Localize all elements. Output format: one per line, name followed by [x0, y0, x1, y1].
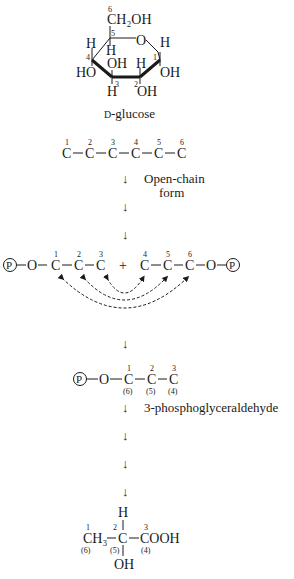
- mapping-arrow-c1-c6: [62, 278, 187, 308]
- lactate-c1-origin: (6): [81, 546, 91, 555]
- oc-c2: C: [85, 146, 94, 161]
- c4-hydrogen: H: [86, 36, 96, 51]
- down-arrow-7: ↓: [122, 456, 129, 471]
- c3-hydroxyl: OH: [107, 56, 127, 71]
- lactate-c2-num: 2: [113, 523, 117, 532]
- glucose-structure: 6 CH₂OH 5 O H H H 4 1 HO OH H OH 3 2 H O…: [76, 5, 180, 121]
- cl-c5: C: [163, 258, 172, 273]
- cl-c1: C: [51, 258, 60, 273]
- lactate-c3-origin: (4): [141, 546, 151, 555]
- oc-c5: C: [154, 146, 163, 161]
- lactate-ch3: CH₃: [83, 531, 107, 546]
- lactate-h: H: [118, 505, 128, 520]
- open-chain-label-2: form: [159, 185, 184, 200]
- down-arrow-4: ↓: [122, 336, 129, 351]
- g3p-c3: C: [169, 372, 178, 387]
- c4-number: 4: [86, 53, 90, 62]
- oc-c6: C: [177, 146, 186, 161]
- down-arrow-5: ↓: [122, 400, 129, 415]
- g3p-phosphate: P: [76, 373, 82, 385]
- cl-c4: C: [140, 258, 149, 273]
- g3p-c1: C: [124, 372, 133, 387]
- g3p-label: 3-phosphoglyceraldehyde: [144, 400, 279, 415]
- plus-sign: +: [119, 258, 127, 273]
- c5-number: 5: [111, 29, 115, 38]
- oc-c1: C: [62, 146, 71, 161]
- mapping-arrow-c3-c4: [107, 278, 143, 293]
- c2-hydroxyl: OH: [137, 84, 157, 99]
- oxygen-left: O: [27, 258, 37, 273]
- lactate-c2: C: [118, 531, 127, 546]
- open-chain-structure: 1 2 3 4 5 6 C C C C C C: [62, 138, 186, 161]
- c1-hydrogen: H: [160, 35, 170, 50]
- o-c1-bond: [146, 40, 158, 52]
- down-arrow-8: ↓: [122, 484, 129, 499]
- down-arrow-3: ↓: [122, 227, 129, 242]
- down-arrow-2: ↓: [122, 199, 129, 214]
- glycolysis-diagram: 6 CH₂OH 5 O H H H 4 1 HO OH H OH 3 2 H O…: [0, 0, 294, 579]
- cl-c6: C: [185, 258, 194, 273]
- g3p-structure: P O 1 2 3 C C C (6) (5) (4): [74, 364, 179, 396]
- lactate-cooh: COOH: [140, 531, 180, 546]
- lactate-c2-origin: (5): [110, 546, 120, 555]
- c1-hydroxyl: OH: [160, 65, 180, 80]
- down-arrow-1: ↓: [122, 171, 129, 186]
- lactate-structure: H 1 CH₃ 2 C 3 COOH (6) (5) (4) OH: [81, 505, 180, 572]
- mapping-arrow-c2-c5: [84, 278, 166, 300]
- down-arrow-6: ↓: [122, 428, 129, 443]
- ring-oxygen: O: [136, 33, 146, 48]
- g3p-oxygen: O: [99, 372, 109, 387]
- c2-hydrogen: H: [136, 56, 146, 71]
- oc-c3: C: [108, 146, 117, 161]
- cleavage-structure: P O 1 2 3 C C C + 4 5 6 C C C O P: [4, 250, 240, 308]
- phosphate-right: P: [229, 259, 235, 271]
- glucose-label: -glucose: [111, 106, 155, 121]
- c3-hydrogen: H: [107, 84, 117, 99]
- phosphate-left: P: [6, 259, 12, 271]
- oxygen-right: O: [206, 258, 216, 273]
- lactate-oh: OH: [114, 557, 134, 572]
- g3p-origin-3: (4): [168, 387, 178, 396]
- cl-c3: C: [96, 258, 105, 273]
- ch2oh-group: CH₂OH: [107, 12, 152, 27]
- cl-c2: C: [74, 258, 83, 273]
- c1-number: 1: [153, 53, 157, 62]
- g3p-origin-2: (5): [146, 387, 156, 396]
- open-chain-label-1: Open-chain: [144, 171, 205, 186]
- oc-c4: C: [131, 146, 140, 161]
- c4-hydroxyl: HO: [76, 65, 96, 80]
- g3p-c2: C: [147, 372, 156, 387]
- g3p-origin-1: (6): [123, 387, 133, 396]
